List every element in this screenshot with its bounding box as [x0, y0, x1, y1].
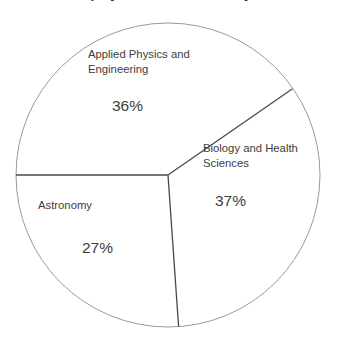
slice-label-biology-health-sciences: Biology and Health Sciences	[203, 141, 321, 170]
slice-label-astronomy: Astronomy	[38, 198, 158, 213]
slice-label-applied-physics: Applied Physics and Engineering	[88, 47, 223, 76]
slice-value-applied-physics: 36%	[112, 97, 143, 115]
slice-value-biology-health-sciences: 37%	[215, 192, 246, 210]
slice-value-astronomy: 27%	[82, 239, 113, 257]
pie-chart-figure: Number of Employees at the Astronomy Sci…	[0, 0, 339, 343]
